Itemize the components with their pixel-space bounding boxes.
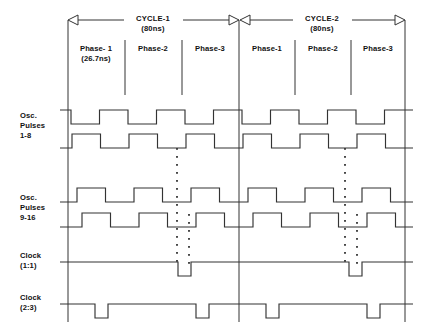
row-label-clock23-line2: (2:3) <box>20 303 37 312</box>
ellipsis-dot <box>356 246 358 248</box>
ellipsis-dot <box>176 148 178 150</box>
cycle-1-duration: (80ns) <box>141 24 165 33</box>
ellipsis-dot <box>356 262 358 264</box>
ellipsis-dot <box>344 204 346 206</box>
cycle-1-name: CYCLE-1 <box>136 14 170 23</box>
ellipsis-dot <box>356 214 358 216</box>
cycle-2-name: CYCLE-2 <box>305 14 339 23</box>
phase-label-c1-p1: Phase- 1 <box>80 44 113 53</box>
ellipsis-dot <box>344 148 346 150</box>
phase-duration-c1-p1: (26.7ns) <box>81 54 111 63</box>
phase-label-c1-p3: Phase-3 <box>195 44 225 53</box>
ellipsis-dot <box>344 252 346 254</box>
timing-diagram: CYCLE-1 (80ns) CYCLE-2 (80ns) P <box>0 0 432 331</box>
ellipsis-dot <box>176 228 178 230</box>
row-label-osc9-16-line2: Pulses <box>20 203 45 212</box>
ellipsis-dot <box>176 220 178 222</box>
ellipsis-dot <box>344 260 346 262</box>
ellipsis-dot <box>356 238 358 240</box>
ellipsis-dot <box>344 188 346 190</box>
row-label-osc1-8-line2: Pulses <box>20 121 45 130</box>
ellipsis-dot <box>176 196 178 198</box>
ellipsis-dot <box>176 156 178 158</box>
row-label-clock11-line2: (1:1) <box>20 261 37 270</box>
phase-label-c1-p2: Phase-2 <box>138 44 168 53</box>
ellipsis-dot <box>344 244 346 246</box>
timing-diagram-page: CYCLE-1 (80ns) CYCLE-2 (80ns) P <box>0 0 432 331</box>
ellipsis-dot <box>188 254 190 256</box>
ellipsis-dot <box>176 252 178 254</box>
ellipsis-dot <box>344 220 346 222</box>
ellipsis-dot <box>176 244 178 246</box>
row-label-osc9-16-line3: 9-16 <box>20 213 36 222</box>
row-label-osc9-16-line1: Osc. <box>20 193 37 202</box>
ellipsis-dot <box>188 262 190 264</box>
row-label-osc1-8-line1: Osc. <box>20 111 37 120</box>
ellipsis-dot <box>356 222 358 224</box>
cycle-2-duration: (80ns) <box>310 24 334 33</box>
ellipsis-dot <box>176 180 178 182</box>
ellipsis-dot <box>344 228 346 230</box>
ellipsis-dot <box>188 246 190 248</box>
ellipsis-dot <box>356 254 358 256</box>
ellipsis-dot <box>176 204 178 206</box>
ellipsis-dot <box>176 236 178 238</box>
ellipsis-dot <box>176 260 178 262</box>
ellipsis-dot <box>176 188 178 190</box>
ellipsis-dot <box>176 164 178 166</box>
ellipsis-dot <box>344 164 346 166</box>
phase-label-c2-p2: Phase-2 <box>308 44 338 53</box>
phase-label-c2-p3: Phase-3 <box>363 44 393 53</box>
ellipsis-dot <box>188 238 190 240</box>
row-label-osc1-8-line3: 1-8 <box>20 131 31 140</box>
ellipsis-dot <box>176 172 178 174</box>
ellipsis-dot <box>344 236 346 238</box>
ellipsis-dot <box>188 214 190 216</box>
ellipsis-dot <box>188 230 190 232</box>
ellipsis-dot <box>176 212 178 214</box>
row-label-clock23-line1: Clock <box>20 293 42 302</box>
ellipsis-dot <box>344 156 346 158</box>
ellipsis-dot <box>344 196 346 198</box>
ellipsis-dot <box>356 230 358 232</box>
phase-label-c2-p1: Phase-1 <box>252 44 283 53</box>
ellipsis-dot <box>344 212 346 214</box>
ellipsis-dot <box>344 172 346 174</box>
ellipsis-dot <box>344 180 346 182</box>
row-label-clock11-line1: Clock <box>20 251 42 260</box>
ellipsis-dot <box>188 222 190 224</box>
